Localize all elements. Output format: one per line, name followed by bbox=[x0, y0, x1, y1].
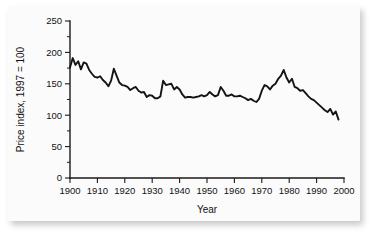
x-tick-label-1930: 1930 bbox=[142, 185, 163, 196]
y-tick-label-100: 100 bbox=[46, 110, 62, 121]
x-tick-label-1990: 1990 bbox=[306, 185, 327, 196]
x-tick-label-1970: 1970 bbox=[251, 185, 272, 196]
x-tick-label-1950: 1950 bbox=[196, 185, 217, 196]
price-index-series-line bbox=[70, 58, 339, 120]
y-tick-label-200: 200 bbox=[46, 47, 62, 58]
y-tick-label-50: 50 bbox=[51, 141, 62, 152]
x-tick-label-1940: 1940 bbox=[169, 185, 190, 196]
x-tick-label-1910: 1910 bbox=[87, 185, 108, 196]
price-index-line-chart: 0501001502002501900191019201930194019501… bbox=[8, 6, 360, 221]
chart-card: 0501001502002501900191019201930194019501… bbox=[8, 6, 360, 221]
y-tick-label-250: 250 bbox=[46, 15, 62, 26]
x-tick-label-1960: 1960 bbox=[224, 185, 245, 196]
y-tick-label-0: 0 bbox=[57, 172, 62, 183]
x-tick-label-1980: 1980 bbox=[279, 185, 300, 196]
x-tick-label-1920: 1920 bbox=[114, 185, 135, 196]
x-tick-label-2000: 2000 bbox=[333, 185, 354, 196]
x-axis-title: Year bbox=[197, 204, 218, 215]
y-axis-title: Price index, 1997 = 100 bbox=[15, 46, 26, 152]
x-tick-label-1900: 1900 bbox=[59, 185, 80, 196]
y-tick-label-150: 150 bbox=[46, 78, 62, 89]
